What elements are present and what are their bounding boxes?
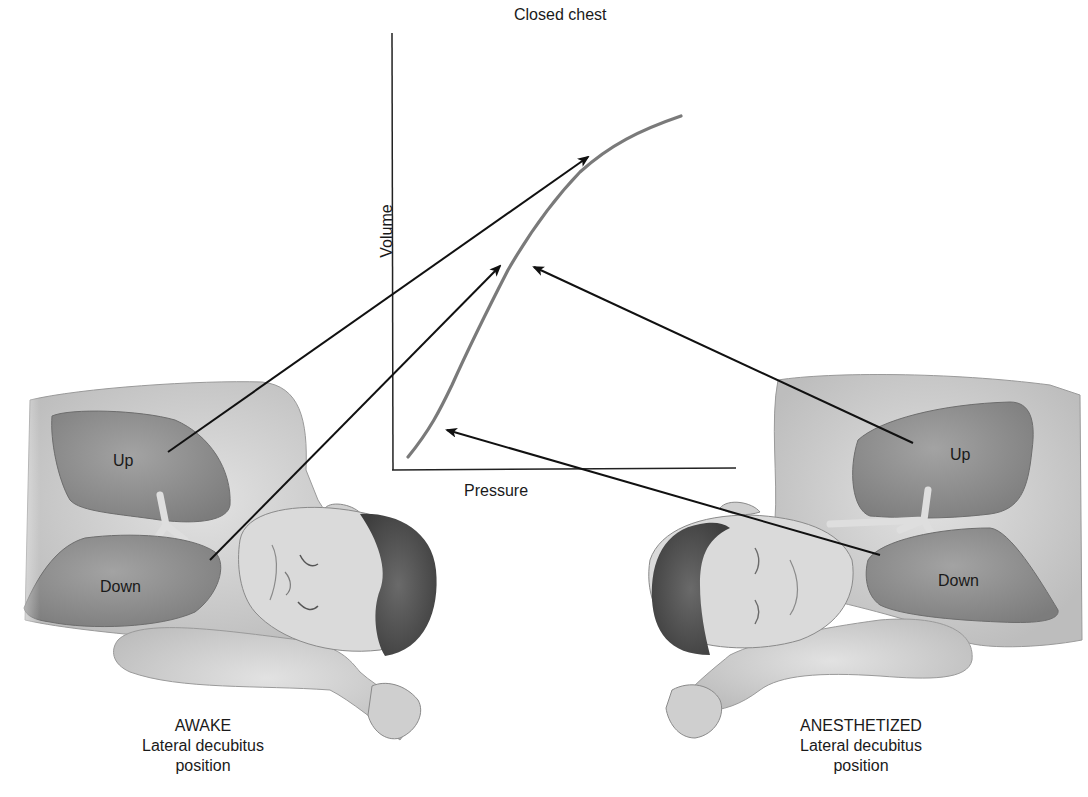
x-axis-label: Pressure [464, 482, 528, 500]
awake-caption: AWAKE Lateral decubitus position [103, 716, 303, 776]
pressure-volume-chart [392, 33, 736, 470]
awake-position-line2: position [103, 756, 303, 776]
chart-title: Closed chest [514, 6, 607, 24]
arrow-anesthetized-up [534, 267, 913, 443]
compliance-curve [408, 116, 681, 457]
y-axis-label: Volume [378, 196, 396, 266]
anesthetized-state-label: ANESTHETIZED [761, 716, 961, 736]
anesthetized-up-lung-label: Up [950, 446, 970, 464]
anesthetized-caption: ANESTHETIZED Lateral decubitus position [761, 716, 961, 776]
anesthetized-position-line1: Lateral decubitus [761, 736, 961, 756]
awake-up-lung-label: Up [113, 452, 133, 470]
awake-position-line1: Lateral decubitus [103, 736, 303, 756]
x-axis [392, 468, 736, 470]
awake-state-label: AWAKE [103, 716, 303, 736]
anesthetized-patient-illustration [649, 375, 1082, 738]
anesthetized-down-lung-label: Down [938, 572, 979, 590]
awake-down-lung-label: Down [100, 578, 141, 596]
awake-patient-illustration [0, 380, 437, 740]
anesthetized-position-line2: position [761, 756, 961, 776]
pressure-volume-figure [0, 0, 1088, 797]
